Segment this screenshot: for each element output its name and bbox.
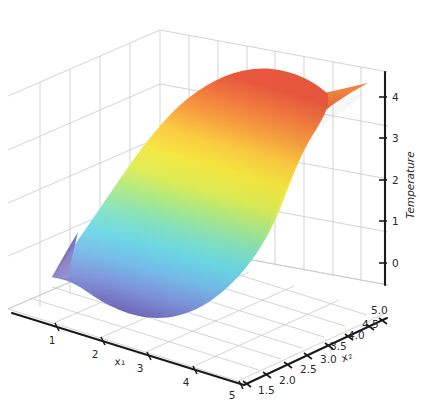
z-tick-label-0: 0 (392, 257, 399, 269)
z-tick-label-3: 3 (392, 132, 399, 144)
y-tick-label-4.5: 4.5 (362, 318, 379, 330)
z-tick-label-1: 1 (392, 215, 399, 227)
surface-mesh (40, 60, 390, 330)
z-axis-title: Temperature (404, 151, 416, 218)
z-tick-label-2: 2 (392, 174, 399, 186)
plot-canvas: 4 3 2 1 0 Temperature 1 2 3 4 5 x₁ (0, 0, 423, 403)
y-tick-label-4.0: 4.0 (348, 329, 365, 341)
y-axis: 1.5 2.0 2.5 3.0 3.5 4.0 4.5 5.0 x₂ (243, 304, 388, 396)
z-tick-label-4: 4 (392, 91, 399, 103)
x-tick-label-5: 5 (229, 389, 236, 401)
x-tick-label-1: 1 (49, 334, 56, 346)
y-tick-label-2.0: 2.0 (279, 374, 296, 386)
y-tick-label-1.5: 1.5 (258, 384, 275, 396)
x-axis: 1 2 3 4 5 x₁ (12, 313, 244, 401)
surface-shading (40, 60, 390, 330)
x-axis-title: x₁ (113, 355, 126, 368)
figure-3d-surface-plot: 4 3 2 1 0 Temperature 1 2 3 4 5 x₁ (0, 0, 423, 403)
y-tick-label-5.0: 5.0 (371, 304, 388, 316)
y-tick-label-2.5: 2.5 (300, 363, 317, 375)
x-tick-label-2: 2 (92, 348, 99, 360)
y-tick-label-3.0: 3.0 (320, 353, 337, 365)
z-axis: 4 3 2 1 0 Temperature (379, 72, 416, 285)
x-tick-label-4: 4 (183, 376, 190, 388)
x-tick-label-3: 3 (137, 362, 144, 374)
